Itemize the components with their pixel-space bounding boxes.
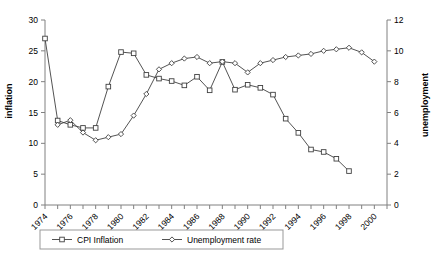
legend-label: Unemployment rate [187,235,261,245]
data-point-marker [60,237,65,242]
x-axis-tick-label: 2000 [358,211,379,232]
y-axis-left-tick-label: 15 [29,108,39,118]
data-point-marker [131,51,136,56]
y-axis-right-tick-label: 2 [394,169,399,179]
data-point-marker [270,57,275,62]
data-point-marker [283,54,288,59]
x-axis-tick-label: 1988 [206,211,227,232]
data-point-marker [309,147,314,152]
legend-label: CPI Inflation [77,235,124,245]
data-point-marker [334,156,339,161]
data-point-marker [106,84,111,89]
x-axis-tick-label: 1976 [54,211,75,232]
data-point-marker [93,138,98,143]
data-point-marker [119,50,124,55]
data-point-marker [156,67,161,72]
data-point-marker [131,113,136,118]
chart-figure: inflation unemployment 05101520253002468… [0,0,442,259]
x-axis-tick-label: 1996 [308,211,329,232]
x-axis-tick-label: 1984 [156,211,177,232]
y-axis-left-tick-label: 10 [29,138,39,148]
x-axis-tick-label: 1980 [105,211,126,232]
y-axis-left-tick-label: 20 [29,77,39,87]
y-axis-right-tick-label: 0 [394,200,399,210]
data-point-marker [182,56,187,61]
data-point-marker [144,91,149,96]
data-point-marker [207,88,212,93]
data-point-marker [144,73,149,78]
x-axis-tick-label: 1990 [232,211,253,232]
data-point-marker [207,61,212,66]
y-axis-left-tick-label: 0 [33,200,38,210]
y-axis-left-tick-label: 25 [29,46,39,56]
series-unemployment-rate [55,45,377,143]
data-point-marker [258,86,263,91]
x-axis-tick-label: 1998 [333,211,354,232]
data-point-marker [157,76,162,81]
data-point-marker [296,53,301,58]
x-axis-tick-label: 1994 [282,211,303,232]
data-point-marker [106,135,111,140]
y-axis-right-tick-label: 10 [394,46,404,56]
x-axis-tick-label: 1978 [80,211,101,232]
y-axis-left-tick-label: 30 [29,15,39,25]
data-point-marker [195,74,200,79]
data-point-marker [245,82,250,87]
data-point-marker [308,51,313,56]
y-axis-right-tick-label: 4 [394,138,399,148]
data-point-marker [118,131,123,136]
chart-legend: CPI InflationUnemployment rate [40,230,283,249]
data-point-marker [169,79,174,84]
chart-plot-area: 0510152025300246810121974197619781980198… [0,0,442,259]
data-point-marker [346,45,351,50]
data-point-marker [334,47,339,52]
data-point-marker [169,61,174,66]
x-axis-tick-label: 1974 [29,211,50,232]
x-axis-tick-label: 1986 [181,211,202,232]
data-point-marker [93,126,98,131]
x-axis-tick-label: 1992 [257,211,278,232]
x-axis-tick-label: 1982 [130,211,151,232]
data-point-marker [321,48,326,53]
y-axis-right-tick-label: 12 [394,15,404,25]
y-axis-right-tick-label: 6 [394,108,399,118]
data-point-marker [283,116,288,121]
data-point-marker [296,131,301,136]
data-point-marker [271,92,276,97]
data-point-marker [194,54,199,59]
data-point-marker [233,87,238,92]
data-point-marker [347,169,352,174]
data-point-marker [182,83,187,88]
data-point-marker [43,36,48,41]
series-line [58,48,375,141]
data-point-marker [321,150,326,155]
y-axis-right-tick-label: 8 [394,77,399,87]
y-axis-left-tick-label: 5 [33,169,38,179]
